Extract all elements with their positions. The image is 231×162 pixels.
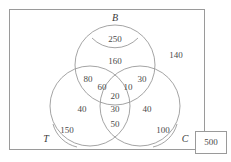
venn-diagram-canvas: B T C 250 160 80 60 20 10 30 40 150 30 5…: [0, 0, 231, 162]
set-label-c: C: [182, 133, 189, 144]
set-label-b: B: [112, 12, 118, 23]
region-t-only-outer: 40: [78, 104, 88, 114]
region-b-t-only: 80: [84, 74, 94, 84]
universe-count-value: 500: [204, 137, 218, 147]
region-t-c-only-lower: 50: [111, 119, 121, 129]
region-b-only-inner: 250: [108, 34, 122, 44]
region-c-only-outer: 40: [143, 104, 153, 114]
region-b-only-outer: 160: [108, 56, 122, 66]
region-c-only-inner: 100: [156, 125, 170, 135]
region-b-t-only-inner: 60: [98, 82, 108, 92]
set-label-t: T: [43, 133, 50, 144]
region-b-c-only-inner: 10: [124, 82, 134, 92]
region-t-c-only-upper: 30: [111, 104, 121, 114]
region-outside-all: 140: [169, 50, 183, 60]
venn-diagram-page: B T C 250 160 80 60 20 10 30 40 150 30 5…: [0, 0, 231, 162]
region-t-only-inner: 150: [60, 125, 74, 135]
region-b-t-c-center: 20: [111, 91, 121, 101]
region-b-c-only: 30: [138, 74, 148, 84]
